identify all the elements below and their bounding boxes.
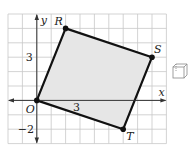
y-axis-label: y: [40, 14, 48, 27]
vertex-label-R: R: [54, 15, 63, 28]
vertex-label-S: S: [154, 43, 162, 56]
coordinate-plane: y x O 3 −2 3 R S T: [0, 0, 189, 153]
vertex-point-R: [63, 26, 69, 32]
origin-label: O: [26, 103, 35, 116]
vertex-point-T: [120, 126, 126, 132]
x-axis-label: x: [158, 86, 165, 99]
vertex-point-O: [34, 98, 40, 104]
y-tick-label-neg2: −2: [18, 123, 34, 136]
vertex-label-T: T: [126, 130, 135, 143]
x-tick-label-3: 3: [73, 101, 80, 114]
y-tick-label-3: 3: [26, 51, 33, 64]
parallelogram-ORST: [37, 28, 152, 129]
cube-icon: [173, 64, 187, 78]
